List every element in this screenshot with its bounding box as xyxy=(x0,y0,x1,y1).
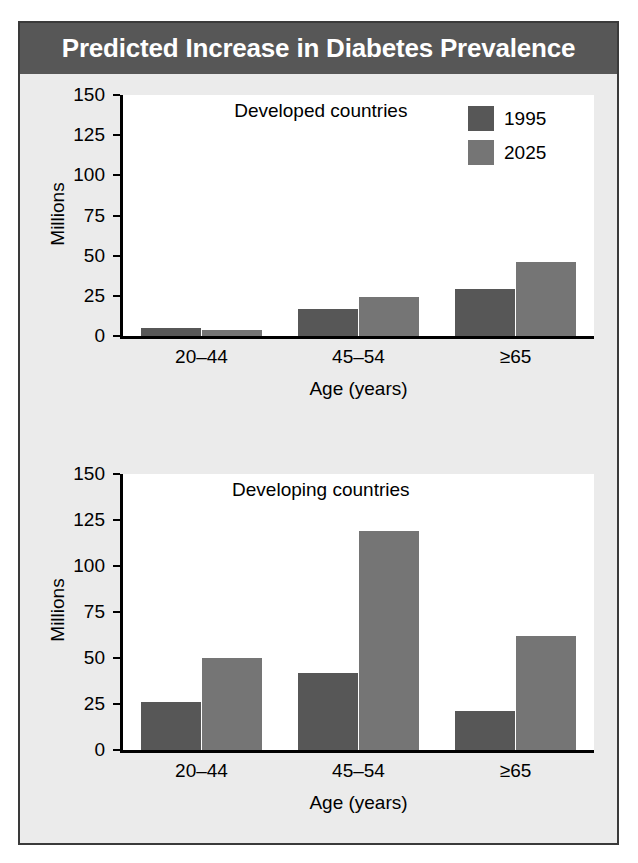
x-axis-developing xyxy=(120,750,594,753)
x-tick-label: 45–54 xyxy=(332,346,385,368)
x-axis-title-developed: Age (years) xyxy=(123,378,594,400)
x-tick-label: ≥65 xyxy=(500,760,532,782)
y-tick-label: 25 xyxy=(84,693,105,715)
y-tick-label: 25 xyxy=(84,285,105,307)
y-tick xyxy=(113,295,120,297)
legend-swatch-2025-icon xyxy=(468,140,494,165)
y-tick xyxy=(113,703,120,705)
bar-1995-20–44 xyxy=(141,702,201,750)
bar-1995-20–44 xyxy=(141,328,201,336)
chart-panel-developed: Millions Developed countries 1995 2025 A… xyxy=(20,74,617,420)
y-axis-developing xyxy=(120,474,123,753)
y-tick-label: 75 xyxy=(84,601,105,623)
legend-label-2025: 2025 xyxy=(504,142,546,164)
y-tick xyxy=(113,134,120,136)
y-tick xyxy=(113,473,120,475)
x-tick-label: 20–44 xyxy=(175,346,228,368)
y-axis-title-developed: Millions xyxy=(47,164,69,264)
x-axis-developed xyxy=(120,336,594,339)
y-tick-label: 0 xyxy=(94,739,105,761)
panel-annotation-developed: Developed countries xyxy=(234,100,407,122)
figure-frame: Predicted Increase in Diabetes Prevalenc… xyxy=(18,21,619,845)
y-tick-label: 150 xyxy=(73,463,105,485)
y-tick-label: 50 xyxy=(84,245,105,267)
y-tick xyxy=(113,335,120,337)
bar-1995-45–54 xyxy=(298,673,358,750)
x-tick-label: 45–54 xyxy=(332,760,385,782)
y-tick xyxy=(113,611,120,613)
chart-panel-developing: Millions Developing countries Age (years… xyxy=(20,420,617,845)
panel-annotation-developing: Developing countries xyxy=(232,479,409,501)
y-tick-label: 150 xyxy=(73,84,105,106)
legend-item-2025: 2025 xyxy=(468,140,546,165)
bar-1995-45–54 xyxy=(298,309,358,336)
page-title: Predicted Increase in Diabetes Prevalenc… xyxy=(62,33,576,64)
y-tick xyxy=(113,519,120,521)
y-tick xyxy=(113,657,120,659)
y-tick-label: 125 xyxy=(73,509,105,531)
x-tick-label: 20–44 xyxy=(175,760,228,782)
y-tick-label: 0 xyxy=(94,325,105,347)
y-tick-label: 75 xyxy=(84,205,105,227)
figure-title-bar: Predicted Increase in Diabetes Prevalenc… xyxy=(20,23,617,74)
x-axis-title-developing: Age (years) xyxy=(123,792,594,814)
bar-1995-≥65 xyxy=(455,711,515,750)
y-tick xyxy=(113,565,120,567)
bar-2025-45–54 xyxy=(359,297,419,336)
y-tick-label: 100 xyxy=(73,555,105,577)
y-tick-label: 100 xyxy=(73,164,105,186)
bars-layer-developing xyxy=(123,474,594,750)
legend-label-1995: 1995 xyxy=(504,108,546,130)
y-tick-label: 125 xyxy=(73,124,105,146)
y-tick xyxy=(113,174,120,176)
y-tick xyxy=(113,749,120,751)
plot-area-developing xyxy=(123,474,594,750)
y-tick xyxy=(113,255,120,257)
bar-2025-≥65 xyxy=(516,262,576,336)
bar-2025-20–44 xyxy=(202,658,262,750)
legend: 1995 2025 xyxy=(468,106,546,174)
bar-2025-45–54 xyxy=(359,531,419,750)
y-tick xyxy=(113,215,120,217)
legend-item-1995: 1995 xyxy=(468,106,546,131)
y-axis-developed xyxy=(120,95,123,339)
y-tick xyxy=(113,94,120,96)
y-axis-title-developing: Millions xyxy=(47,560,69,660)
bar-2025-≥65 xyxy=(516,636,576,750)
bar-1995-≥65 xyxy=(455,289,515,336)
y-tick-label: 50 xyxy=(84,647,105,669)
x-tick-label: ≥65 xyxy=(500,346,532,368)
legend-swatch-1995-icon xyxy=(468,106,494,131)
